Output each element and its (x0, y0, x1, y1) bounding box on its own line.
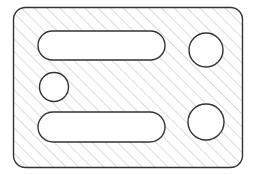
technical-drawing-svg (0, 0, 255, 175)
drawing-canvas (0, 0, 255, 175)
plate-hatch-fill (0, 0, 255, 175)
